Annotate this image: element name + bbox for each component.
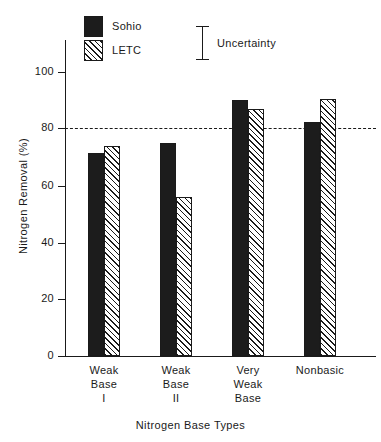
y-tick-0 bbox=[58, 356, 66, 357]
y-tick-label-0: 0 bbox=[48, 349, 54, 361]
y-tick-100 bbox=[58, 72, 66, 73]
x-axis-title: Nitrogen Base Types bbox=[0, 419, 381, 431]
y-tick-label-100: 100 bbox=[35, 65, 54, 77]
bar-sohio-weak-base-i bbox=[88, 153, 104, 356]
y-tick-60 bbox=[58, 186, 66, 187]
y-tick-20 bbox=[58, 299, 66, 300]
y-tick-label-80: 80 bbox=[41, 121, 54, 133]
y-tick-40 bbox=[58, 243, 66, 244]
x-category-line-1: Nonbasic bbox=[277, 363, 363, 377]
y-tick-label-60: 60 bbox=[41, 179, 54, 191]
x-category-line-2: Weak bbox=[205, 377, 291, 391]
bar-letc-nonbasic bbox=[320, 99, 336, 356]
bar-letc-very-weak-base bbox=[248, 109, 264, 356]
plot-area: 0 20 40 60 80 100 Weak Base I Weak Base … bbox=[0, 0, 381, 442]
y-axis-title: Nitrogen Removal (%) bbox=[17, 101, 29, 291]
x-axis-line bbox=[65, 356, 376, 357]
y-axis-line bbox=[65, 40, 66, 356]
bar-sohio-weak-base-ii bbox=[160, 143, 176, 356]
nitrogen-removal-bar-chart: Sohio LETC Uncertainty 0 20 40 60 80 100 bbox=[0, 0, 381, 442]
bar-sohio-nonbasic bbox=[304, 122, 320, 356]
x-category-nonbasic: Nonbasic bbox=[277, 363, 363, 377]
y-tick-label-20: 20 bbox=[41, 292, 54, 304]
bar-letc-weak-base-i bbox=[104, 146, 120, 356]
y-tick-label-40: 40 bbox=[41, 236, 54, 248]
bar-sohio-very-weak-base bbox=[232, 100, 248, 356]
bar-letc-weak-base-ii bbox=[176, 197, 192, 356]
x-category-line-3: Base bbox=[205, 391, 291, 405]
